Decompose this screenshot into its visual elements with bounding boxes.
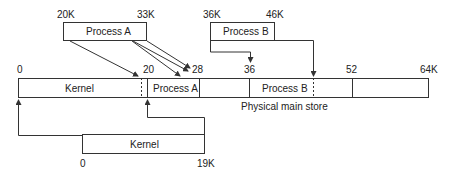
store-region-kernel: Kernel [65,84,94,94]
store-tick-28: 28 [192,65,203,75]
process-a-start-label: 20K [57,10,75,20]
arrow-b-end-to-46 [274,41,314,77]
process-b-end-label: 46K [266,10,284,20]
process-b-segment-box: Process B [210,22,275,41]
kernel-end-label: 19K [197,159,215,169]
arrow-a-start-to-20 [70,41,138,76]
process-b-segment-label: Process B [223,27,269,37]
arrow-kernel-start-to-0 [19,100,83,136]
store-tick-52: 52 [346,65,357,75]
kernel-segment-box: Kernel [82,134,205,154]
arrow-a-end-to-28 [133,41,188,71]
process-b-start-label: 36K [203,10,221,20]
memory-mapping-diagram: Process A 20K 33K Process B 36K 46K Kern… [0,0,452,178]
kernel-segment-label: Kernel [130,140,159,150]
store-tick-0: 0 [17,65,23,75]
process-a-end-label: 33K [137,10,155,20]
store-tick-36: 36 [244,65,255,75]
store-tick-20: 20 [143,65,154,75]
store-region-process-b: Process B [262,84,308,94]
main-store-caption: Physical main store [241,102,328,112]
arrow-b-start-to-36 [211,40,251,62]
kernel-start-label: 0 [80,159,86,169]
store-tick-64k: 64K [420,65,438,75]
arrow-kernel-end-to-19k [148,100,205,134]
store-region-process-a: Process A [153,84,198,94]
process-a-segment-label: Process A [86,27,131,37]
process-a-segment-box: Process A [63,22,147,41]
